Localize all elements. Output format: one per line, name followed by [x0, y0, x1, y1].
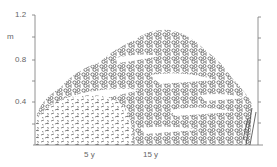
right-axis — [258, 17, 261, 145]
shrub-crown-diagram: m 1.2 0.8 0.4 5 y 15 y — [0, 0, 277, 167]
y-axis-unit: m — [7, 33, 14, 41]
y-tick-0-8: 0.8 — [15, 56, 26, 64]
y-tick-1-2: 1.2 — [15, 11, 26, 19]
left-axis — [32, 15, 35, 145]
x-label-15y: 15 y — [143, 151, 158, 159]
foliage-mass — [30, 20, 260, 150]
crown-drawing — [0, 0, 277, 167]
x-label-5y: 5 y — [84, 151, 95, 159]
y-tick-0-4: 0.4 — [15, 98, 26, 106]
